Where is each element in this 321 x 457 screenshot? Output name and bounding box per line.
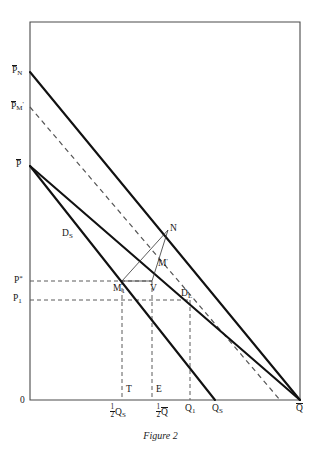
point-label-m1: M1 xyxy=(113,284,125,295)
x-label-q-bar: Q xyxy=(296,404,303,414)
y-label-p-star: P* xyxy=(14,275,23,285)
figure-caption: Figure 2 xyxy=(0,430,321,441)
x-label-half-q-bar: 12Q xyxy=(156,404,168,420)
axis-origin-label: 0 xyxy=(20,396,25,406)
curve-short-run-ds xyxy=(30,166,215,400)
figure-container: PN PM' P P* P1 0 12QS 12Q Q1 QS Q DS N M… xyxy=(0,0,321,457)
y-label-p-bar-n: PN xyxy=(12,66,22,77)
point-label-n: N xyxy=(170,224,177,234)
axis-frame xyxy=(30,22,300,400)
curve-label-dl: DL xyxy=(181,289,192,300)
point-label-t: T xyxy=(126,385,132,395)
curve-long-run-dl xyxy=(30,166,300,400)
point-label-m-prime: M' xyxy=(158,258,168,268)
y-label-p-bar-m-prime: PM' xyxy=(11,101,24,112)
point-label-e: E xyxy=(156,385,162,395)
x-label-half-qs: 12QS xyxy=(110,404,126,420)
y-label-p-bar: P xyxy=(16,160,21,170)
connector-lines xyxy=(122,230,168,281)
curve-label-ds: DS xyxy=(62,229,73,240)
connector-m1-to-n xyxy=(122,230,168,281)
connector-n-to-v xyxy=(152,230,168,281)
x-label-qs: QS xyxy=(212,404,223,415)
curve-marginal-revenue xyxy=(30,107,280,400)
y-label-p-one: P1 xyxy=(13,294,22,305)
point-label-v: V xyxy=(150,284,157,294)
guide-lines xyxy=(30,281,190,400)
x-label-q-one: Q1 xyxy=(185,404,195,415)
